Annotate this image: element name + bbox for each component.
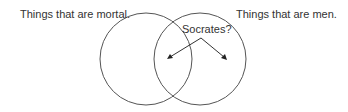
arrowhead-intersection-icon: [167, 54, 173, 59]
set-label-mortal: Things that are mortal.: [20, 8, 130, 20]
set-label-men: Things that are men.: [236, 8, 337, 20]
arrow-to-men-only: [201, 38, 227, 60]
arrow-line-men-only: [201, 38, 224, 57]
question-label-socrates: Socrates?: [182, 23, 232, 35]
venn-diagram: Things that are mortal. Things that are …: [0, 0, 348, 112]
arrow-to-intersection: [167, 38, 201, 59]
arrow-line-intersection: [170, 38, 201, 57]
set-circle-mortal: [100, 13, 192, 105]
